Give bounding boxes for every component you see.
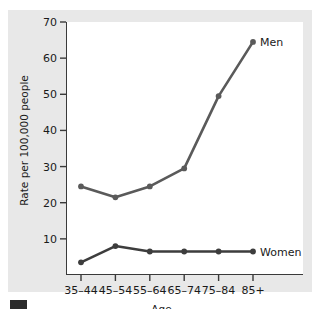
series-lines bbox=[78, 39, 256, 265]
data-point bbox=[181, 165, 187, 171]
series-line-men bbox=[81, 42, 253, 197]
line-chart: 10203040506070 35–4445–5455–6465–7475–84… bbox=[8, 10, 312, 292]
data-point bbox=[250, 39, 256, 45]
caption-marker bbox=[10, 300, 27, 309]
x-tick-label: 55–64 bbox=[133, 284, 167, 297]
data-point bbox=[216, 93, 222, 99]
y-tick-label: 70 bbox=[43, 16, 57, 29]
y-tick-label: 30 bbox=[43, 161, 57, 174]
figure-panel: 10203040506070 35–4445–5455–6465–7475–84… bbox=[8, 10, 312, 292]
series-label-men: Men bbox=[260, 36, 283, 49]
y-tick-label: 60 bbox=[43, 52, 57, 65]
x-axis-ticks: 35–4445–5455–6465–7475–8485+ bbox=[64, 275, 264, 297]
data-point bbox=[216, 249, 222, 255]
data-point bbox=[78, 184, 84, 190]
y-tick-label: 20 bbox=[43, 197, 57, 210]
y-tick-label: 10 bbox=[43, 233, 57, 246]
x-tick-label: 85+ bbox=[241, 284, 264, 297]
series-label-women: Women bbox=[260, 246, 301, 259]
x-tick-label: 35–44 bbox=[64, 284, 98, 297]
x-tick-label: 75–84 bbox=[202, 284, 236, 297]
series-line-women bbox=[81, 246, 253, 262]
data-point bbox=[250, 249, 256, 255]
x-tick-label: 45–54 bbox=[99, 284, 133, 297]
y-axis-title: Rate per 100,000 people bbox=[18, 75, 30, 206]
x-tick-label: 65–74 bbox=[167, 284, 201, 297]
data-point bbox=[113, 243, 119, 249]
data-point bbox=[181, 249, 187, 255]
data-point bbox=[147, 249, 153, 255]
y-tick-label: 40 bbox=[43, 124, 57, 137]
data-point bbox=[147, 184, 153, 190]
data-point bbox=[113, 194, 119, 200]
x-axis-title: Age bbox=[151, 303, 171, 309]
y-axis-ticks: 10203040506070 bbox=[43, 16, 66, 246]
chart-text-labels: MenWomenAgeRate per 100,000 people bbox=[18, 36, 301, 309]
y-tick-label: 50 bbox=[43, 88, 57, 101]
data-point bbox=[78, 259, 84, 265]
